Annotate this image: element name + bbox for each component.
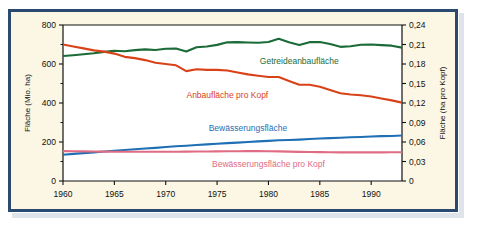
x-axis-tick-label: 1985 (310, 189, 329, 199)
figure-container: 020040060080000,030,060,090,120,150,180,… (0, 0, 478, 228)
y-axis-left-tick-label: 400 (42, 98, 56, 108)
y-axis-left-tick-label: 800 (42, 20, 56, 30)
y-axis-left-tick-label: 600 (42, 59, 56, 69)
y-axis-left-tick-label: 200 (42, 137, 56, 147)
y-axis-left-tick-label: 0 (51, 176, 56, 186)
x-axis-tick-label: 1990 (362, 189, 381, 199)
line-chart: 020040060080000,030,060,090,120,150,180,… (8, 9, 458, 212)
y-axis-right-tick-label: 0,06 (409, 137, 426, 147)
y-axis-right-tick-label: 0,03 (409, 157, 426, 167)
y-axis-right-tick-label: 0,21 (409, 40, 426, 50)
x-axis-tick-label: 1980 (259, 189, 278, 199)
x-axis-tick-label: 1970 (156, 189, 175, 199)
series-label-bew-sserungsfl-che: Bewässerungsfläche (209, 123, 288, 133)
x-axis-tick-label: 1965 (105, 189, 124, 199)
y-axis-right-tick-label: 0,15 (409, 79, 426, 89)
y-axis-right-tick-label: 0,24 (409, 20, 426, 30)
x-axis-tick-label: 1975 (208, 189, 227, 199)
series-label-getreideanbaufl-che: Getreideanbaufläche (260, 56, 339, 66)
series-label-bew-sserungsfl-che-pro-kopf: Bewässerungsfläche pro Kopf (212, 159, 326, 169)
y-axis-right-tick-label: 0 (409, 176, 414, 186)
y-axis-right-title: Fläche (ha pro Kopf) (438, 66, 447, 139)
y-axis-right-tick-label: 0,09 (409, 118, 426, 128)
plot-background (63, 25, 402, 181)
y-axis-left-title: Fläche (Mio. ha) (23, 74, 32, 132)
y-axis-right-tick-label: 0,12 (409, 98, 426, 108)
y-axis-right-tick-label: 0,18 (409, 59, 426, 69)
frame-shadow-bottom (12, 213, 464, 218)
series-label-anbaufl-che-pro-kopf: Anbaufläche pro Kopf (186, 90, 268, 100)
x-axis-tick-label: 1960 (54, 189, 73, 199)
frame-shadow-right (459, 13, 464, 215)
